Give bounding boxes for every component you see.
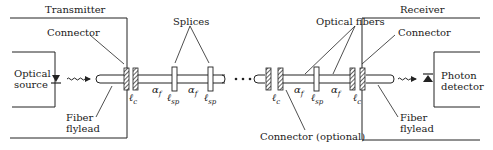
photon-detector-diode-icon — [423, 74, 433, 82]
fiber-flylead-left — [96, 75, 126, 83]
loss-splice-symbol: ℓsp — [311, 93, 323, 107]
photon-detector-line2: detector — [441, 81, 484, 92]
connector-label-left: Connector — [47, 27, 100, 38]
connector-tx-left — [124, 68, 129, 90]
connector-opt-left — [266, 68, 271, 90]
optical-fibers-label: Optical fibers — [316, 16, 385, 27]
optical-source-line2: source — [14, 79, 48, 90]
photon-detector-line1: Photon — [441, 70, 477, 81]
receiver-label: Receiver — [400, 4, 445, 15]
splice-3 — [314, 67, 319, 91]
optical-source-diode-icon — [51, 75, 61, 83]
attenuation-symbol: αf — [331, 85, 340, 99]
connector-tx-right — [133, 68, 138, 90]
connector-rx-right — [360, 68, 365, 90]
optical-source-line1: Optical — [14, 68, 51, 79]
ellipsis — [235, 78, 252, 81]
flylead-left-line1: Fiber — [66, 112, 93, 123]
connector-rx-left — [350, 68, 355, 90]
connector-opt-right — [278, 68, 283, 90]
connector-optional-label: Connector (optional) — [260, 131, 365, 142]
connector-label-right: Connector — [398, 27, 451, 38]
loss-splice-symbol: ℓsp — [204, 93, 216, 107]
attenuation-symbol: αf — [152, 85, 161, 99]
loss-connector-symbol: ℓc — [353, 93, 361, 107]
attenuation-symbol: αf — [294, 85, 303, 99]
light-wave-right — [398, 78, 416, 80]
loss-connector-symbol: ℓc — [272, 93, 280, 107]
transmitter-label: Transmitter — [45, 4, 105, 15]
loss-splice-symbol: ℓsp — [167, 93, 179, 107]
flylead-right-line2: flylead — [400, 123, 434, 134]
loss-connector-symbol: ℓc — [129, 93, 137, 107]
splice-2 — [208, 67, 213, 91]
splice-1 — [172, 67, 177, 91]
flylead-left-line2: flylead — [66, 123, 100, 134]
light-wave-left — [67, 78, 90, 80]
splices-label: Splices — [173, 16, 209, 27]
fiber-flylead-right — [366, 75, 394, 83]
flylead-right-line1: Fiber — [400, 112, 427, 123]
attenuation-symbol: αf — [188, 85, 197, 99]
